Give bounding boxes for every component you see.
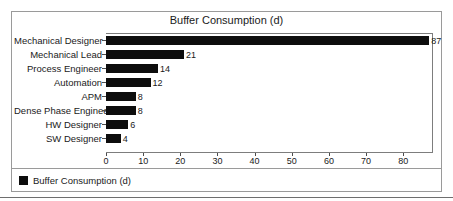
bar-value-label: 8 [136,90,143,104]
bar-track: 8 [106,90,441,104]
category-label-group: SW Designer [12,132,102,146]
bar [106,36,429,45]
bar [106,50,184,59]
chart-legend: Buffer Consumption (d) [12,169,441,192]
bar-track: 8 [106,104,441,118]
category-label: Process Engineer [14,62,102,76]
bar-value-label: 87 [429,34,441,48]
category-label-group: HW Designer [12,118,102,132]
category-label: SW Designer [14,132,102,146]
category-label: Dense Phase Engineer [14,104,102,118]
legend-label: Buffer Consumption (d) [33,175,131,186]
bar-value-label: 12 [151,76,163,90]
bar-track: 6 [106,118,441,132]
bar-row: Process Engineer14 [12,62,441,76]
bar-track: 87 [106,34,441,48]
bar [106,106,136,115]
bar-value-label: 21 [184,48,196,62]
bar-row: HW Designer6 [12,118,441,132]
bar-row: Dense Phase Engineer8 [12,104,441,118]
category-label: Automation [14,76,102,90]
x-tick-label: 50 [287,156,297,166]
category-label-group: Dense Phase Engineer [12,104,102,118]
x-tick-label: 40 [250,156,260,166]
legend-swatch-icon [19,176,28,185]
bar-track: 21 [106,48,441,62]
category-label-group: APM [12,90,102,104]
bar-value-label: 14 [158,62,170,76]
bar-row: Automation12 [12,76,441,90]
bar-row: Mechanical Lead21 [12,48,441,62]
plot-region: Mechanical Designer87Mechanical Lead21Pr… [12,29,441,168]
x-tick-label: 20 [175,156,185,166]
category-label: Mechanical Designer [14,34,102,48]
bar [106,134,121,143]
x-tick-label: 80 [398,156,408,166]
category-label-group: Mechanical Lead [12,48,102,62]
bar [106,78,151,87]
chart-title: Buffer Consumption (d) [12,12,441,29]
bar-value-label: 6 [128,118,135,132]
category-label: APM [14,90,102,104]
bar-track: 12 [106,76,441,90]
x-axis: 01020304050607080 [106,153,433,168]
bar-track: 4 [106,132,441,146]
bar-row: SW Designer4 [12,132,441,146]
category-label: HW Designer [14,118,102,132]
bar-row: APM8 [12,90,441,104]
category-label-group: Process Engineer [12,62,102,76]
bottom-rule [0,197,453,198]
chart-frame: Buffer Consumption (d) Mechanical Design… [11,11,442,192]
bar-row: Mechanical Designer87 [12,34,441,48]
x-tick-label: 10 [138,156,148,166]
bar-value-label: 8 [136,104,143,118]
x-tick-label: 70 [361,156,371,166]
bar-value-label: 4 [121,132,128,146]
x-tick-label: 0 [103,156,108,166]
bar [106,64,158,73]
category-label: Mechanical Lead [14,48,102,62]
x-tick-label: 30 [212,156,222,166]
category-label-group: Mechanical Designer [12,34,102,48]
bar [106,120,128,129]
bar-track: 14 [106,62,441,76]
category-label-group: Automation [12,76,102,90]
x-tick-label: 60 [324,156,334,166]
bar [106,92,136,101]
